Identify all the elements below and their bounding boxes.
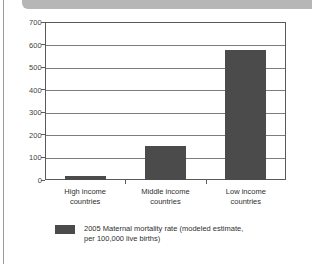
bars-layer xyxy=(45,22,286,180)
y-axis-tick-marks xyxy=(14,22,45,180)
x-axis-category-label: High incomecountries xyxy=(45,187,125,206)
bar-chart: 0100200300400500600700 High incomecountr… xyxy=(14,16,298,256)
bar[interactable] xyxy=(225,50,266,180)
page-top-banner xyxy=(22,0,312,9)
x-axis-tick-marks xyxy=(45,180,286,185)
chart-legend: 2005 Maternal mortality rate (modeled es… xyxy=(55,224,290,244)
legend-label-line-1: 2005 Maternal mortality rate (modeled xyxy=(84,224,211,233)
x-axis-tick-mark xyxy=(206,180,207,184)
legend-label: 2005 Maternal mortality rate (modeled es… xyxy=(84,224,249,244)
legend-color-swatch xyxy=(55,225,75,234)
x-axis-category-label: Low incomecountries xyxy=(206,187,286,206)
bar[interactable] xyxy=(145,146,186,180)
x-axis-category-labels: High incomecountriesMiddle incomecountri… xyxy=(45,187,286,213)
x-axis-category-label: Middle incomecountries xyxy=(125,187,205,206)
page-left-rule xyxy=(3,0,4,264)
x-axis-tick-mark xyxy=(125,180,126,184)
